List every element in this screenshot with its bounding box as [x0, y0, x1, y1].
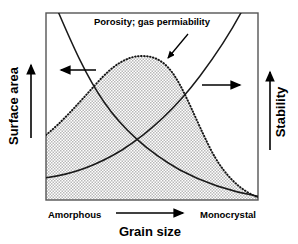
figure-container: Porosity; gas permiability Surface area … — [0, 0, 298, 244]
porosity-annotation-label: Porosity; gas permiability — [94, 16, 211, 27]
x-tick-label-right: Monocrystal — [200, 209, 256, 220]
bottom-axis-label: Grain size — [119, 224, 181, 239]
right-axis-label: Stability — [273, 86, 288, 137]
left-axis-label: Surface area — [6, 66, 21, 145]
x-tick-label-left: Amorphous — [48, 209, 101, 220]
schematic-chart: Porosity; gas permiability Surface area … — [0, 0, 298, 244]
